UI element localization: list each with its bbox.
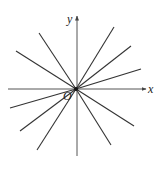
x-axis-label: x [147,82,154,96]
line-lower-right-steep [76,89,111,145]
origin-point [74,87,78,91]
line-upper-left-shallow [16,51,76,89]
origin-label: O [63,89,72,103]
y-axis-label: y [66,12,73,26]
line-upper-right-mid [76,46,131,89]
line-lower-right-shallow [76,89,134,126]
line-upper-right-shallow [76,69,141,89]
line-upper-left-steep [39,33,76,89]
diagram-canvas: x y O [0,0,159,177]
line-upper-right-steep [76,27,114,89]
